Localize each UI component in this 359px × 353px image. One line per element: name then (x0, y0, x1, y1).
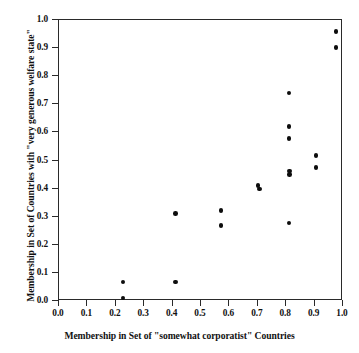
data-point (287, 172, 292, 177)
y-axis-tick (52, 19, 58, 20)
data-point (287, 136, 292, 141)
data-point (121, 296, 126, 301)
y-axis-tick (52, 47, 58, 48)
x-axis-tick (143, 300, 144, 306)
x-axis-tick (285, 300, 286, 306)
x-axis-tick (86, 300, 87, 306)
data-point (287, 221, 292, 226)
data-point (334, 45, 339, 50)
data-points-layer (59, 20, 341, 299)
data-point (219, 223, 224, 228)
data-point (314, 153, 319, 158)
y-axis-tick (52, 160, 58, 161)
y-axis-tick (52, 131, 58, 132)
data-point (121, 280, 126, 285)
x-axis-tick (58, 300, 59, 306)
data-point (334, 29, 339, 34)
scatter-plot-figure: 0.00.10.20.30.40.50.60.70.80.91.00.00.10… (0, 0, 359, 353)
data-point (287, 91, 292, 96)
x-axis-tick (115, 300, 116, 306)
y-axis-tick (52, 216, 58, 217)
plot-frame (58, 19, 342, 300)
y-axis-title: Membership in Set of Countries with "ver… (25, 16, 36, 316)
data-point (173, 211, 178, 216)
data-point (257, 187, 262, 192)
x-axis-tick-label: 1.0 (322, 308, 359, 318)
data-point (219, 208, 224, 213)
x-axis-tick (314, 300, 315, 306)
x-axis-tick (228, 300, 229, 306)
y-axis-tick (52, 75, 58, 76)
x-axis-tick (257, 300, 258, 306)
y-axis-tick (52, 244, 58, 245)
x-axis-title: Membership in Set of "somewhat corporati… (0, 330, 359, 341)
x-axis-tick (342, 300, 343, 306)
x-axis-tick (172, 300, 173, 306)
data-point (314, 165, 319, 170)
data-point (287, 124, 292, 129)
y-axis-tick (52, 103, 58, 104)
x-axis-tick (200, 300, 201, 306)
y-axis-tick (52, 188, 58, 189)
y-axis-tick (52, 272, 58, 273)
data-point (173, 280, 178, 285)
